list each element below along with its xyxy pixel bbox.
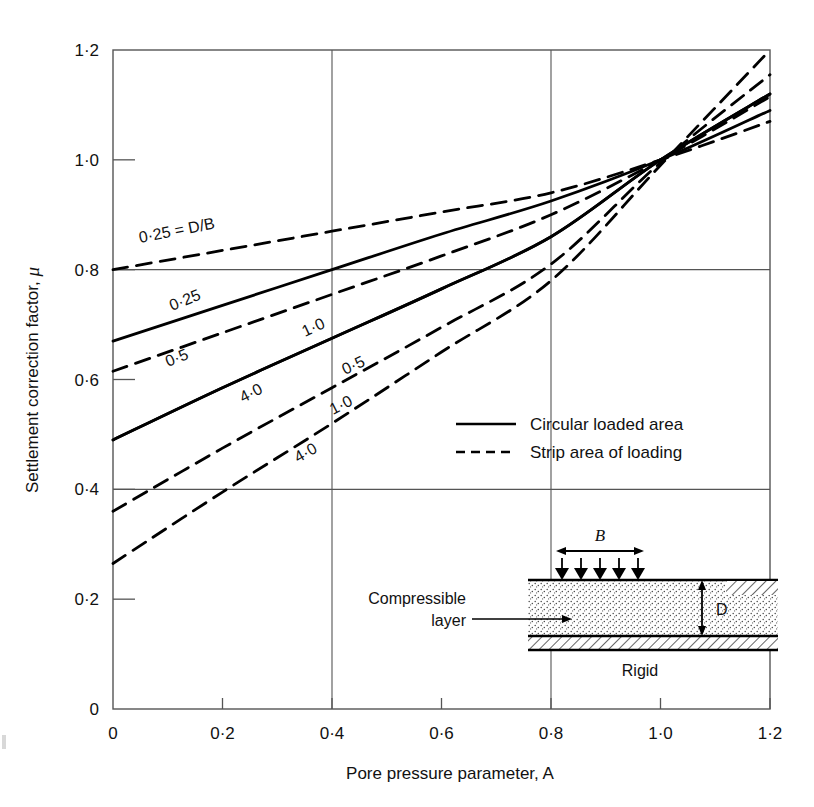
rigid-base-hatch [528, 637, 778, 650]
inset-b-label: B [595, 526, 606, 545]
x-tick-label: 0·8 [539, 724, 564, 743]
y-tick-label: 1·2 [74, 41, 99, 60]
chart-figure: 00·20·40·60·81·01·2 00·20·40·60·81·01·2 … [0, 0, 814, 807]
y-tick-label: 0·2 [74, 590, 99, 609]
x-tick-label: 0 [108, 724, 117, 743]
x-tick-label: 0·6 [429, 724, 454, 743]
inset-d-label: D [716, 601, 728, 618]
x-tick-label: 0·4 [320, 724, 345, 743]
compressible-layer-body [528, 580, 724, 636]
x-tick-label: 1·0 [648, 724, 673, 743]
inset-layer-label-line1: Compressible [368, 590, 466, 607]
y-axis-title: Settlement correction factor, μ [22, 267, 43, 493]
y-tick-label: 0·6 [74, 371, 99, 390]
chart-background [0, 0, 814, 807]
y-tick-label: 0·4 [74, 480, 99, 499]
x-axis-title: Pore pressure parameter, A [346, 764, 555, 783]
y-tick-label: 1·0 [74, 151, 99, 170]
x-tick-label: 1·2 [758, 724, 783, 743]
settlement-chart-svg: 00·20·40·60·81·01·2 00·20·40·60·81·01·2 … [0, 0, 814, 807]
y-tick-label: 0 [90, 700, 99, 719]
scan-artifact [2, 735, 6, 749]
inset-layer-label-line2: layer [431, 612, 466, 629]
legend-label-strip: Strip area of loading [530, 443, 682, 462]
inset-rigid-label: Rigid [622, 662, 658, 679]
y-tick-label: 0·8 [74, 261, 99, 280]
x-tick-label: 0·2 [210, 724, 235, 743]
y-axis-title-group: Settlement correction factor, μ [22, 267, 43, 493]
legend-label-circular: Circular loaded area [530, 415, 684, 434]
embedment-hatch [726, 581, 778, 595]
